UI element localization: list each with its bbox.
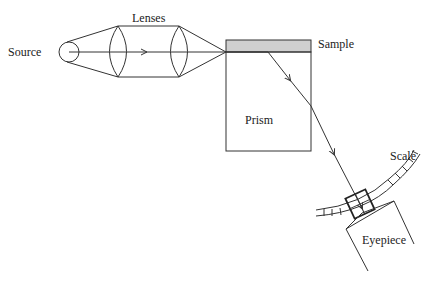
scale-label: Scale: [390, 149, 416, 163]
lenses-label: Lenses: [132, 11, 166, 25]
source-label: Source: [8, 45, 41, 59]
prism-label: Prism: [245, 113, 274, 127]
eyepiece-label: Eyepiece: [362, 233, 406, 247]
sample-label: Sample: [318, 37, 354, 51]
refracted-ray: [226, 52, 362, 208]
prism: [226, 52, 311, 151]
reticle-box: [345, 189, 374, 218]
refractometer-diagram: Source Lenses Sample Prism: [0, 0, 428, 284]
sample-strip: [226, 40, 311, 52]
